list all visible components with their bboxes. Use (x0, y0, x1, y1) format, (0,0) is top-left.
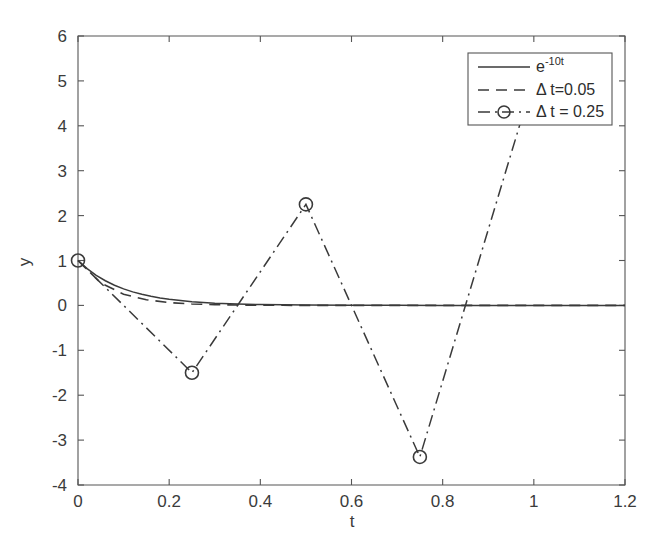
x-tick-label: 0.4 (249, 492, 273, 511)
y-tick-label: 2 (58, 207, 67, 226)
y-tick-label: 1 (58, 252, 67, 271)
x-tick-label: 1 (529, 492, 538, 511)
y-tick-label: 5 (58, 72, 67, 91)
y-axis-label: y (15, 257, 34, 266)
y-tick-label: 3 (58, 162, 67, 181)
y-tick-label: -4 (52, 476, 67, 495)
x-tick-label: 0.8 (431, 492, 455, 511)
legend-label-2: Δ t = 0.25 (536, 103, 604, 120)
y-tick-label: -3 (52, 431, 67, 450)
x-tick-label: 1.2 (613, 492, 637, 511)
x-axis-label: t (350, 512, 355, 531)
x-tick-label: 0 (73, 492, 82, 511)
figure-container: 00.20.40.60.811.2 6543210-1-2-3-4 t y e-… (0, 0, 666, 555)
x-tick-label: 0.2 (157, 492, 181, 511)
y-tick-label: 0 (58, 296, 67, 315)
y-tick-label: 4 (58, 117, 67, 136)
y-tick-label: -2 (52, 386, 67, 405)
y-tick-label: -1 (52, 341, 67, 360)
legend: e-10tΔ t=0.05Δ t = 0.25 (468, 53, 612, 125)
x-tick-label: 0.6 (340, 492, 364, 511)
legend-label-1: Δ t=0.05 (536, 81, 595, 98)
y-tick-label: 6 (58, 27, 67, 46)
chart-canvas: 00.20.40.60.811.2 6543210-1-2-3-4 t y e-… (0, 0, 666, 555)
